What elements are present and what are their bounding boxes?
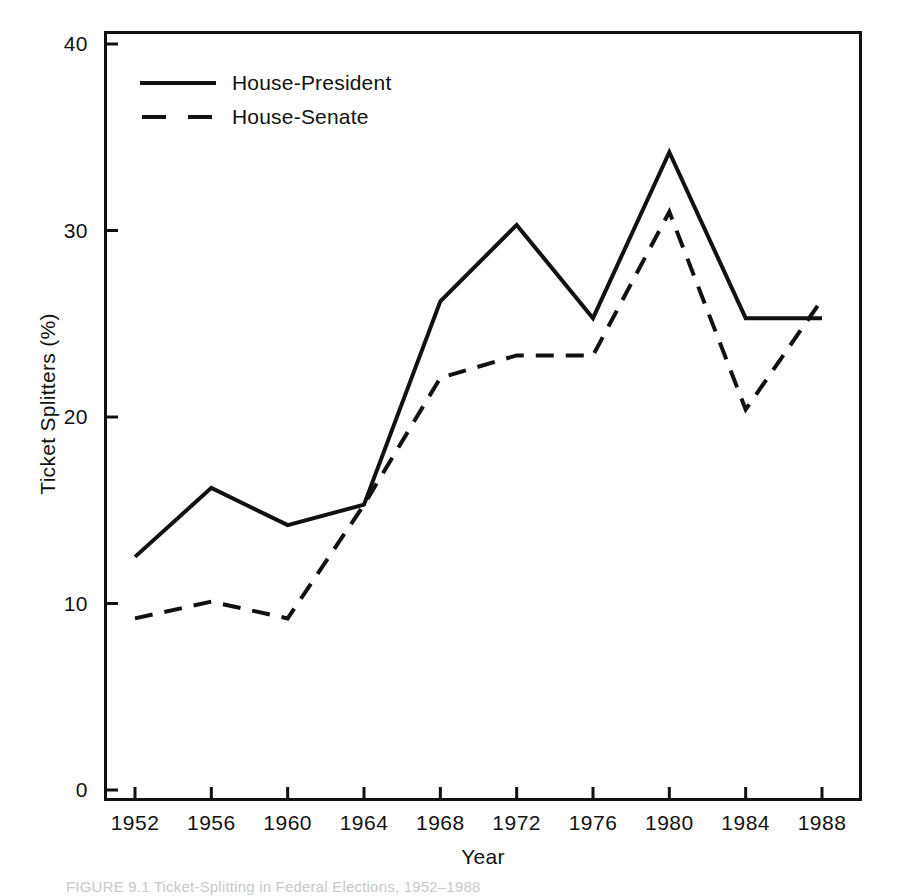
legend-item-house-president: House-President: [140, 66, 470, 100]
chart-legend: House-President House-Senate: [140, 66, 470, 134]
figure-container: 010203040 195219561960196419681972197619…: [0, 0, 901, 896]
y-tick-label: 10: [36, 593, 88, 614]
y-axis-title: Ticket Splitters (%): [36, 294, 60, 514]
legend-swatch-solid-line-icon: [140, 76, 216, 90]
y-tick-label: 0: [36, 779, 88, 800]
x-tick-label: 1988: [777, 812, 867, 833]
legend-swatch-dashed-line-icon: [140, 110, 216, 124]
legend-label-house-senate: House-Senate: [232, 105, 369, 129]
legend-label-house-president: House-President: [232, 71, 391, 95]
y-tick-label: 40: [36, 33, 88, 54]
plot-area: [104, 31, 862, 801]
y-tick-label: 30: [36, 220, 88, 241]
figure-caption: FIGURE 9.1 Ticket-Splitting in Federal E…: [66, 878, 866, 896]
x-axis-title: Year: [104, 845, 862, 869]
legend-item-house-senate: House-Senate: [140, 100, 470, 134]
